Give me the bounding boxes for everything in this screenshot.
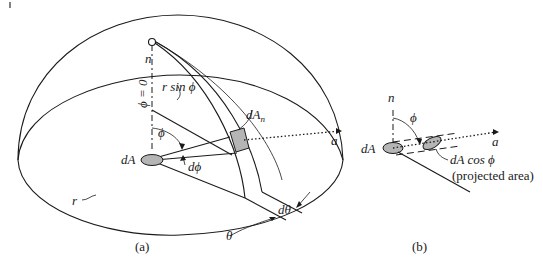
label-phi-b: ϕ [410, 110, 417, 125]
pole-marker [149, 39, 156, 46]
dA-element [141, 155, 163, 166]
label-dA-n: dAn [246, 107, 265, 124]
phi-arrowhead [179, 143, 185, 150]
label-theta: θ [226, 228, 233, 243]
r-leader [82, 195, 96, 200]
projection-line-upper [393, 133, 458, 142]
label-n-b: n [388, 90, 395, 105]
theta-arrow [230, 218, 274, 236]
label-a: a [331, 133, 338, 148]
base-ellipse-front [18, 160, 343, 235]
caption-b: (b) [412, 239, 427, 254]
label-dA-b: dA [361, 141, 376, 156]
label-a-b: a [492, 134, 499, 149]
label-n: n [145, 51, 152, 66]
hemisphere-diagram: n ϕ = 0 r sin ϕ dAn ϕ dA dϕ r a dθ θ (a) [0, 0, 543, 267]
label-r-sin-phi: r sin ϕ [162, 79, 196, 94]
label-dA-cos-phi: dA cos ϕ [450, 152, 495, 167]
panel-a: n ϕ = 0 r sin ϕ dAn ϕ dA dϕ r a dθ θ (a) [18, 15, 343, 254]
panel-b: n ϕ dA a dA cos ϕ (projected area) (b) [361, 90, 534, 254]
label-projected-area: (projected area) [452, 168, 534, 183]
label-dA: dA [121, 152, 136, 167]
label-d-phi: dϕ [188, 159, 202, 174]
label-d-theta: dθ [278, 202, 292, 217]
label-r: r [72, 193, 78, 208]
meridian-arc-1 [155, 43, 245, 198]
label-phi: ϕ [158, 125, 165, 140]
phi-arc [152, 128, 182, 148]
projected-leader [436, 149, 448, 160]
caption-a: (a) [135, 239, 149, 254]
meridian-arc-3 [156, 42, 282, 180]
direction-ray-a [244, 131, 340, 140]
label-phi-zero: ϕ = 0 [135, 79, 150, 108]
